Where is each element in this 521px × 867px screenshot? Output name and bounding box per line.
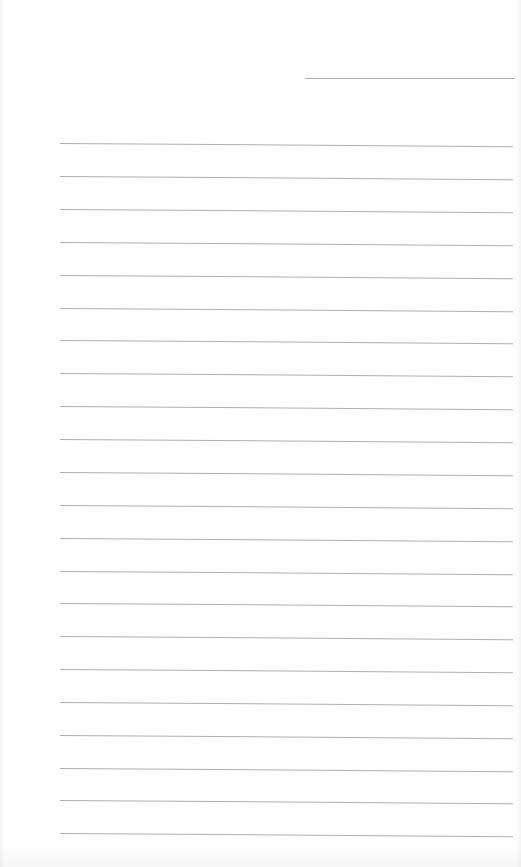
- ruled-line: [60, 308, 513, 312]
- ruled-line: [60, 209, 513, 213]
- ruled-line: [60, 603, 513, 607]
- ruled-line: [60, 538, 513, 542]
- page-edge-shadow-right: [516, 0, 521, 867]
- page-edge-shadow-bottom: [0, 847, 521, 867]
- ruled-line: [60, 735, 513, 739]
- ruled-line: [60, 373, 513, 377]
- ruled-line: [60, 176, 513, 180]
- ruled-line: [60, 702, 513, 706]
- ruled-line: [60, 439, 513, 443]
- ruled-line: [60, 340, 513, 344]
- ruled-line: [60, 242, 513, 246]
- ruled-line: [60, 669, 513, 673]
- page-edge-shadow-left: [0, 0, 6, 867]
- lined-paper-page: [0, 0, 521, 867]
- ruled-line: [60, 275, 513, 279]
- ruled-line: [60, 505, 513, 509]
- ruled-line: [60, 472, 513, 476]
- header-rule-line: [305, 78, 515, 79]
- ruled-line: [60, 636, 513, 640]
- ruled-line: [60, 406, 513, 410]
- ruled-line: [60, 571, 513, 575]
- ruled-line: [60, 768, 513, 772]
- ruled-line: [60, 833, 513, 837]
- ruled-line: [60, 143, 513, 147]
- ruled-line: [60, 800, 513, 804]
